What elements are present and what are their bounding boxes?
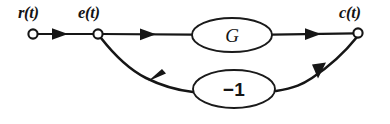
label-node-r: r(t): [18, 3, 39, 22]
node-r[interactable]: [28, 29, 37, 38]
arrowhead-r-to-e: [52, 28, 68, 40]
node-e[interactable]: [93, 29, 102, 38]
node-c[interactable]: [353, 28, 362, 37]
flow-graph-canvas: G −1 r(t) e(t) c(t): [0, 0, 390, 124]
arrowhead-feedback-to-e: [148, 69, 166, 81]
arrowhead-e-to-g: [140, 28, 156, 40]
arrowhead-g-to-c: [305, 28, 321, 40]
edge-feedback-to-e: [101, 38, 193, 92]
forward-gain-label: G: [225, 25, 239, 46]
signal-labels-group: r(t) e(t) c(t): [18, 3, 361, 22]
feedback-gain-label: −1: [223, 79, 246, 100]
block-forward-gain[interactable]: G: [192, 18, 272, 52]
block-feedback-gain[interactable]: −1: [193, 70, 275, 108]
signal-flow-diagram: G −1 r(t) e(t) c(t): [0, 0, 390, 124]
label-node-e: e(t): [78, 3, 100, 22]
label-node-c: c(t): [339, 3, 361, 22]
